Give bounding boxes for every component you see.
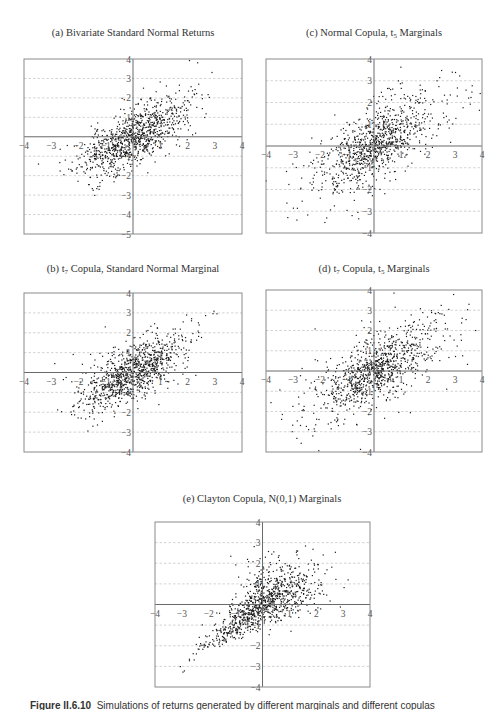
y-tick-label: −1 <box>121 152 131 162</box>
x-tick-label: −3 <box>288 150 298 160</box>
y-tick-label: −2 <box>121 171 131 181</box>
x-tick-label: 2 <box>185 141 190 151</box>
y-tick-label: −4 <box>362 448 372 458</box>
x-tick-label: 3 <box>453 150 458 160</box>
x-tick-label: 4 <box>240 377 245 387</box>
scatter-points <box>54 311 217 432</box>
x-tick-label: −2 <box>204 609 214 619</box>
x-tick-label: −1 <box>342 150 352 160</box>
y-tick-label: −4 <box>362 229 372 239</box>
y-tick-label: 2 <box>256 559 261 569</box>
figure-caption: Figure II.6.10 Simulations of returns ge… <box>30 700 435 710</box>
y-tick-label: −1 <box>250 621 260 631</box>
panel-title-d: (d) t7 Copula, t5 Marginals <box>319 263 430 276</box>
panel-title-e: (e) Clayton Copula, N(0,1) Marginals <box>183 493 341 504</box>
y-tick-label: −4 <box>121 210 131 220</box>
y-tick-label: 2 <box>126 328 131 338</box>
x-tick-label: −1 <box>101 141 111 151</box>
x-tick-label: −2 <box>315 150 325 160</box>
x-tick-label: 2 <box>185 377 190 387</box>
y-tick-label: −3 <box>362 427 372 437</box>
x-tick-label: −3 <box>46 377 56 387</box>
x-tick-label: −1 <box>342 375 352 385</box>
x-tick-label: −4 <box>261 375 271 385</box>
x-tick-label: −4 <box>19 377 29 387</box>
y-tick-label: 2 <box>126 93 131 103</box>
x-tick-label: −3 <box>177 609 187 619</box>
x-tick-label: 3 <box>212 141 217 151</box>
scatter-points <box>270 293 476 452</box>
x-tick-label: 3 <box>212 377 217 387</box>
x-tick-label: 4 <box>368 609 373 619</box>
y-tick-label: −3 <box>121 428 131 438</box>
x-tick-label: −4 <box>261 150 271 160</box>
y-tick-label: 1 <box>256 579 261 589</box>
x-tick-label: 1 <box>158 141 163 151</box>
x-tick-label: 4 <box>480 150 485 160</box>
x-tick-label: 1 <box>287 609 292 619</box>
x-tick-label: 4 <box>240 141 245 151</box>
x-tick-label: −1 <box>101 377 111 387</box>
y-tick-label: 1 <box>126 113 131 123</box>
y-tick-label: 3 <box>367 76 372 86</box>
x-tick-label: −3 <box>46 141 56 151</box>
x-tick-label: 1 <box>158 377 163 387</box>
x-tick-label: −4 <box>150 609 160 619</box>
panel-title-a: (a) Bivariate Standard Normal Returns <box>52 27 215 38</box>
y-tick-label: −1 <box>362 387 372 397</box>
y-tick-label: −4 <box>121 448 131 458</box>
y-tick-label: −2 <box>121 408 131 418</box>
x-tick-label: 1 <box>399 375 404 385</box>
panel-title-c: (c) Normal Copula, t5 Marginals <box>306 27 442 40</box>
scatter-plot-b: −4−3−2−112344321−1−2−3−4 <box>24 293 242 452</box>
y-tick-label: 2 <box>367 326 372 336</box>
x-tick-label: 2 <box>426 375 431 385</box>
scatter-plot-e: −4−3−2−112344321−1−2−3−4 <box>155 522 370 687</box>
y-tick-label: 3 <box>126 308 131 318</box>
y-tick-label: −1 <box>121 388 131 398</box>
x-tick-label: −2 <box>73 141 83 151</box>
y-tick-label: 1 <box>367 346 372 356</box>
x-tick-label: −3 <box>288 375 298 385</box>
y-tick-label: −1 <box>362 163 372 173</box>
x-tick-label: 4 <box>480 375 485 385</box>
y-tick-label: 1 <box>126 348 131 358</box>
y-tick-label: −2 <box>250 641 260 651</box>
x-tick-label: 3 <box>341 609 346 619</box>
scatter-points <box>266 67 481 224</box>
y-tick-label: −2 <box>362 185 372 195</box>
x-tick-label: −4 <box>19 141 29 151</box>
scatter-plot-a: −4−3−2−112344321−1−2−3−4−5 <box>24 59 242 234</box>
y-tick-label: 4 <box>256 518 261 528</box>
y-tick-label: 3 <box>367 306 372 316</box>
y-tick-label: 3 <box>126 74 131 84</box>
x-tick-label: 2 <box>314 609 319 619</box>
x-tick-label: 3 <box>453 375 458 385</box>
y-tick-label: −3 <box>362 207 372 217</box>
y-tick-label: 1 <box>367 120 372 130</box>
y-tick-label: −2 <box>362 407 372 417</box>
y-tick-label: −3 <box>121 191 131 201</box>
y-tick-label: 3 <box>256 538 261 548</box>
y-tick-label: 4 <box>126 289 131 299</box>
x-tick-label: 2 <box>426 150 431 160</box>
y-tick-label: −3 <box>250 662 260 672</box>
y-tick-label: 4 <box>126 55 131 65</box>
panel-title-b: (b) t7 Copula, Standard Normal Marginal <box>47 263 219 276</box>
y-tick-label: 4 <box>367 286 372 296</box>
y-tick-label: −4 <box>250 683 260 693</box>
x-tick-label: −2 <box>73 377 83 387</box>
scatter-plot-c: −4−3−2−112344321−1−2−3−4 <box>266 59 482 233</box>
x-tick-label: 1 <box>399 150 404 160</box>
y-tick-label: 4 <box>367 55 372 65</box>
y-tick-label: −5 <box>121 230 131 240</box>
x-tick-label: −1 <box>231 609 241 619</box>
scatter-plot-d: −4−3−2−112344321−1−2−3−4 <box>266 290 482 452</box>
y-tick-label: 2 <box>367 98 372 108</box>
x-tick-label: −2 <box>315 375 325 385</box>
